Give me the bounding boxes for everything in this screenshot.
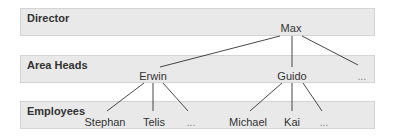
node-kai: Kai <box>284 116 300 128</box>
edge-max-erwin <box>160 36 280 67</box>
node-telis: Telis <box>143 116 165 128</box>
edge-guido-more <box>303 83 322 111</box>
edge-guido-michael <box>250 83 282 111</box>
edge-erwin-stephan <box>107 83 144 111</box>
node-area-more: ... <box>358 71 366 82</box>
node-erwin-more: ... <box>187 117 195 128</box>
node-guido: Guido <box>277 70 306 82</box>
node-guido-more: ... <box>320 117 328 128</box>
node-max: Max <box>281 22 302 34</box>
node-michael: Michael <box>229 116 267 128</box>
node-stephan: Stephan <box>85 116 126 128</box>
edge-erwin-more <box>163 83 188 111</box>
hierarchy-edges <box>0 0 396 136</box>
edge-max-more <box>302 36 358 65</box>
node-erwin: Erwin <box>139 70 167 82</box>
